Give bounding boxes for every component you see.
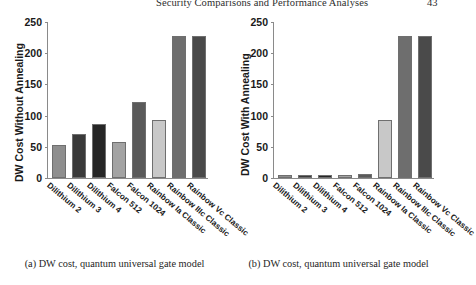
bar [378,120,392,178]
y-axis-tick-label: 50 [16,141,42,153]
y-axis-tick-label: 200 [242,47,268,59]
y-axis-tick-mark [45,53,48,54]
y-axis-tick-mark [45,22,48,23]
bar [172,36,186,178]
x-axis-labels-b: Dilithium 2Dilithium 3Dilithium 4Falcon … [273,179,448,259]
bar [338,175,352,178]
figure-row: DW Cost Without Annealing Dilithium 2Dil… [0,13,451,285]
page-header: Security Comparisons and Performance Ana… [0,0,451,13]
y-axis-tick-label: 0 [16,172,42,184]
bar [278,175,292,178]
chart-a: DW Cost Without Annealing Dilithium 2Dil… [0,13,225,263]
y-axis-tick-mark [45,147,48,148]
bar [318,175,332,178]
subfigure-caption: (a) DW cost, quantum universal gate mode… [2,258,227,269]
bar [152,120,166,178]
subfigure-a: DW Cost Without Annealing Dilithium 2Dil… [0,13,225,285]
bar [398,36,412,178]
y-axis-tick-mark [271,53,274,54]
bar [132,102,146,178]
bar [92,124,106,178]
subfigure-caption: (b) DW cost, quantum universal gate mode… [226,258,451,269]
y-axis-tick-mark [271,147,274,148]
bar [52,145,66,178]
y-axis-tick-label: 200 [16,47,42,59]
page-header-title: Security Comparisons and Performance Ana… [156,0,368,8]
plot-area-a [47,22,208,179]
y-axis-tick-mark [271,116,274,117]
subfigure-b: DW Cost With Annealing Dilithium 2Dilith… [226,13,451,285]
y-axis-tick-label: 50 [242,141,268,153]
y-axis-tick-mark [271,84,274,85]
chart-b: DW Cost With Annealing Dilithium 2Dilith… [226,13,451,263]
y-axis-tick-mark [271,22,274,23]
y-axis-tick-label: 150 [16,78,42,90]
y-axis-tick-mark [45,84,48,85]
y-axis-tick-mark [45,116,48,117]
y-axis-tick-label: 150 [242,78,268,90]
x-axis-labels-a: Dilithium 2Dilithium 3Dilithium 4Falcon … [47,179,222,259]
bar [112,142,126,178]
bar [418,36,432,178]
bar [72,134,86,178]
y-axis-tick-label: 0 [242,172,268,184]
y-axis-tick-label: 250 [242,16,268,28]
page-number: 43 [427,0,438,8]
y-axis-tick-label: 100 [242,110,268,122]
plot-area-b [273,22,434,179]
bar [358,174,372,178]
bar [298,175,312,178]
bar [192,36,206,178]
y-axis-tick-label: 250 [16,16,42,28]
y-axis-tick-label: 100 [16,110,42,122]
